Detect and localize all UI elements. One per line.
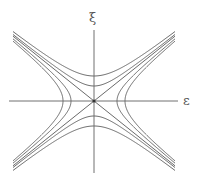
hyperbola-diagram: ξ ε <box>0 0 200 183</box>
epsilon-axis-label: ε <box>183 93 190 108</box>
origin-point <box>92 99 95 102</box>
xi-axis-label: ξ <box>89 10 96 25</box>
